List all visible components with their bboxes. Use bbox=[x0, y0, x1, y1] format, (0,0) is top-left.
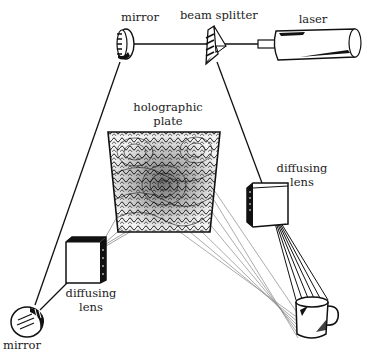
lens-right-label-line1: diffusing bbox=[274, 162, 330, 175]
holography-diagram: mirror beam splitter laser holographic p… bbox=[0, 0, 366, 359]
laser-nozzle bbox=[258, 40, 275, 48]
plate-label-line1: holographic bbox=[130, 101, 206, 114]
lens-left-label-line2: lens bbox=[63, 301, 119, 314]
beam-splitter-label: beam splitter bbox=[180, 9, 252, 22]
beam-splitter-to-lens bbox=[217, 62, 262, 183]
laser bbox=[258, 29, 361, 60]
holographic-plate bbox=[108, 132, 220, 232]
lens-right-label-line2: lens bbox=[274, 176, 330, 189]
plate-label-line2: plate bbox=[130, 115, 206, 128]
laser-label: laser bbox=[295, 13, 331, 26]
mirror-bottom-label: mirror bbox=[0, 339, 44, 352]
laser-end bbox=[349, 29, 361, 57]
mirror-top-label: mirror bbox=[118, 11, 162, 24]
mirror-top bbox=[117, 29, 134, 60]
diffusing-lens-left bbox=[66, 237, 106, 283]
object-mug bbox=[296, 297, 338, 338]
beam-splitter bbox=[206, 26, 226, 64]
lens-left-label-line1: diffusing bbox=[63, 287, 119, 300]
mirror-bottom bbox=[11, 307, 44, 337]
diffusing-lens-right bbox=[247, 183, 288, 227]
